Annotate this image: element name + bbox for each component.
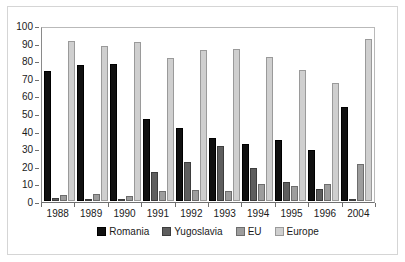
bar [110, 64, 117, 201]
bar [44, 71, 51, 202]
bar [77, 65, 84, 201]
bar-group [142, 29, 175, 201]
bar-group [241, 29, 274, 201]
bar [143, 119, 150, 201]
legend-item-romania[interactable]: Romania [97, 226, 149, 237]
x-axis-label-1991: 1991 [141, 207, 174, 221]
bar [159, 191, 166, 201]
x-axis-label-1990: 1990 [108, 207, 141, 221]
bar-group [274, 29, 307, 201]
legend-item-eu[interactable]: EU [236, 226, 262, 237]
y-axis-tick [35, 133, 39, 134]
legend-label: Europe [287, 226, 319, 237]
y-axis-tick-label: 20 [22, 163, 33, 173]
chart-figure: 0102030405060708090100 19881989199019911… [0, 0, 405, 262]
y-axis-tick [35, 150, 39, 151]
y-axis-tick-label: 60 [22, 92, 33, 102]
legend-swatch-icon [275, 227, 284, 236]
plot-area [41, 27, 375, 203]
bar-group [208, 29, 241, 201]
bar [242, 144, 249, 201]
y-axis-tick [35, 185, 39, 186]
y-axis-tick [35, 97, 39, 98]
legend-swatch-icon [236, 227, 245, 236]
bar [233, 49, 240, 201]
bar-groups [43, 29, 373, 201]
bar [324, 184, 331, 201]
bar-group [43, 29, 76, 201]
bar [217, 146, 224, 201]
y-axis-tick-label: 100 [16, 22, 33, 32]
bar [118, 199, 125, 201]
y-axis-tick-label: 0 [27, 198, 33, 208]
x-axis-label-1996: 1996 [308, 207, 341, 221]
bar [85, 199, 92, 201]
bar-group [307, 29, 340, 201]
x-axis-labels: 1988198919901991199219931994199519962004 [41, 207, 375, 221]
y-axis-tick [35, 27, 39, 28]
plot-wrap [41, 27, 375, 203]
bar [200, 50, 207, 201]
y-axis-tick [35, 203, 39, 204]
bar [316, 189, 323, 201]
x-axis-label-1988: 1988 [41, 207, 74, 221]
bar [308, 150, 315, 201]
bar [341, 107, 348, 201]
bar [225, 191, 232, 201]
x-axis-label-1993: 1993 [208, 207, 241, 221]
bar [266, 57, 273, 201]
bar [332, 83, 339, 201]
y-axis-tick-label: 70 [22, 75, 33, 85]
y-axis-tick-label: 30 [22, 145, 33, 155]
legend-label: EU [248, 226, 262, 237]
bar [134, 42, 141, 201]
bar-group [76, 29, 109, 201]
y-axis-tick-label: 40 [22, 128, 33, 138]
bar [357, 164, 364, 201]
bar [167, 58, 174, 201]
bar [192, 190, 199, 201]
y-axis-tick [35, 62, 39, 63]
bar-group [175, 29, 208, 201]
bar [258, 184, 265, 201]
bar [349, 199, 356, 201]
bar [151, 172, 158, 201]
bar [209, 138, 216, 202]
legend-swatch-icon [97, 227, 106, 236]
y-axis-tick [35, 115, 39, 116]
bar [52, 198, 59, 201]
x-axis-label-2004: 2004 [342, 207, 375, 221]
bar [299, 70, 306, 201]
x-axis-label-1995: 1995 [275, 207, 308, 221]
x-axis-label-1992: 1992 [175, 207, 208, 221]
y-axis-tick [35, 80, 39, 81]
bar [68, 41, 75, 201]
x-axis-tick [375, 203, 376, 207]
bar [176, 128, 183, 201]
bar [60, 195, 67, 201]
y-axis-tick [35, 45, 39, 46]
bar [93, 194, 100, 201]
x-axis-label-1989: 1989 [74, 207, 107, 221]
bar [365, 39, 372, 201]
legend-label: Yugoslavia [174, 226, 222, 237]
bar [250, 168, 257, 201]
y-axis-tick-label: 10 [22, 180, 33, 190]
legend-item-europe[interactable]: Europe [275, 226, 319, 237]
y-axis-tick-label: 50 [22, 110, 33, 120]
bar [283, 182, 290, 201]
x-axis-label-1994: 1994 [241, 207, 274, 221]
legend-swatch-icon [162, 227, 171, 236]
bar-group [109, 29, 142, 201]
y-axis-tick-label: 80 [22, 57, 33, 67]
legend-label: Romania [109, 226, 149, 237]
y-axis-tick-label: 90 [22, 40, 33, 50]
bar-group [340, 29, 373, 201]
bar [291, 186, 298, 201]
bar [126, 196, 133, 201]
y-axis-tick [35, 168, 39, 169]
legend-item-yugoslavia[interactable]: Yugoslavia [162, 226, 222, 237]
bar [184, 162, 191, 201]
chart-legend: RomaniaYugoslaviaEUEurope [41, 223, 375, 239]
bar [275, 140, 282, 201]
